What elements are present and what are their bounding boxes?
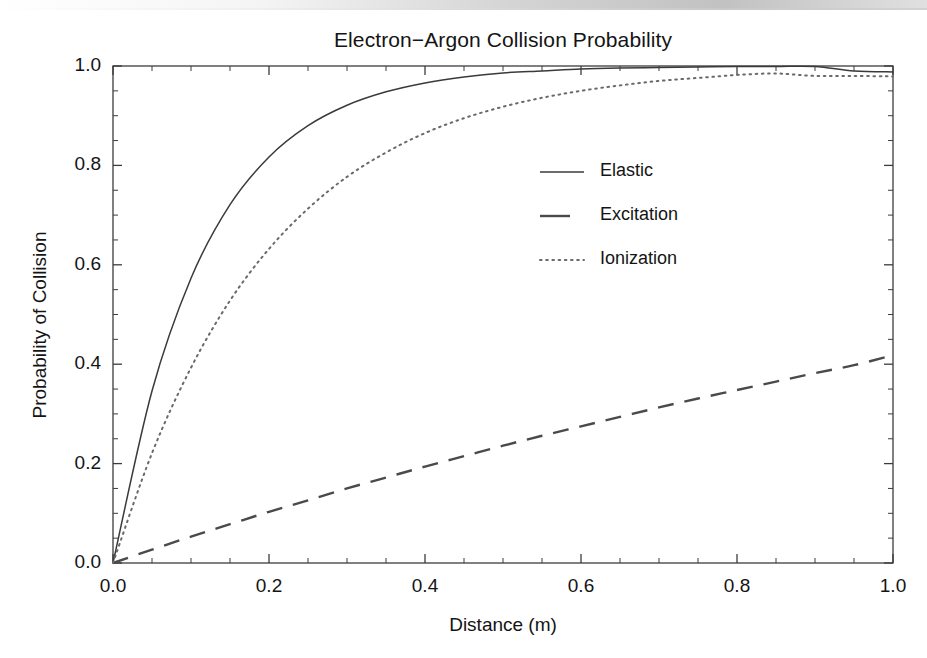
curve-elastic xyxy=(113,66,893,563)
curve-excitation xyxy=(113,355,893,563)
x-tick-label: 1.0 xyxy=(858,575,927,597)
legend-label-excitation: Excitation xyxy=(600,204,678,225)
y-tick-label: 0.8 xyxy=(31,153,101,175)
legend-label-ionization: Ionization xyxy=(600,248,677,269)
data-curves xyxy=(113,66,893,563)
y-tick-label: 0.2 xyxy=(31,452,101,474)
x-tick-label: 0.4 xyxy=(390,575,460,597)
plot-area xyxy=(0,0,927,658)
y-tick-label: 0.6 xyxy=(31,253,101,275)
y-tick-label: 0.4 xyxy=(31,352,101,374)
y-tick-label: 0.0 xyxy=(31,551,101,573)
y-tick-label: 1.0 xyxy=(31,54,101,76)
x-tick-label: 0.8 xyxy=(702,575,772,597)
x-tick-label: 0.2 xyxy=(234,575,304,597)
legend-line-samples xyxy=(540,172,584,260)
axis-ticks xyxy=(113,66,893,563)
x-tick-label: 0.0 xyxy=(78,575,148,597)
axes-frame xyxy=(113,66,893,563)
curve-ionization xyxy=(113,73,893,563)
chart-figure: Electron−Argon Collision Probability Pro… xyxy=(0,0,927,658)
legend-label-elastic: Elastic xyxy=(600,160,653,181)
x-tick-label: 0.6 xyxy=(546,575,616,597)
